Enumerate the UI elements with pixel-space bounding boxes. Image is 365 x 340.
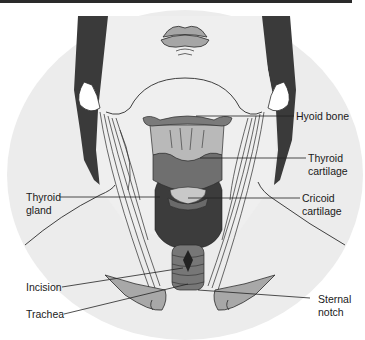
label-thyroid-gland: Thyroid gland — [26, 191, 61, 216]
label-sternal-notch: Sternal notch — [318, 293, 351, 318]
neck-anatomy-diagram: Hyoid bone Thyroid cartilage Thyroid gla… — [0, 0, 365, 340]
label-thyroid-cartilage: Thyroid cartilage — [308, 152, 348, 177]
label-incision: Incision — [26, 281, 62, 294]
label-hyoid-bone: Hyoid bone — [296, 110, 349, 123]
label-trachea: Trachea — [26, 308, 64, 321]
label-cricoid-cartilage: Cricoid cartilage — [302, 192, 342, 217]
trachea — [172, 245, 204, 290]
